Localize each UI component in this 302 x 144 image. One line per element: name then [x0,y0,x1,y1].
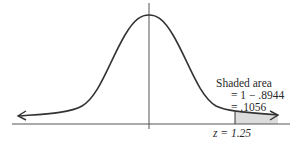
normal-curve-diagram [0,0,302,144]
z-value-label: z = 1.25 [213,127,251,139]
shaded-area-computation: = 1 − .8944 [231,89,284,101]
shaded-area-label: Shaded area [216,77,272,89]
shaded-area-value: = .1056 [231,101,266,113]
